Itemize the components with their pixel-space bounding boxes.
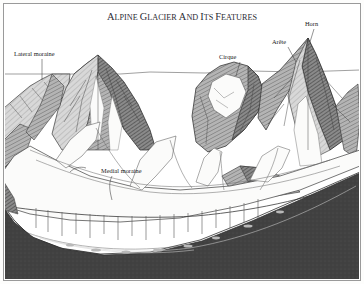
figure-border bbox=[3, 3, 361, 281]
glacier-diagram-figure: Lateral moraine Medial moraine Cirque Ar… bbox=[0, 0, 364, 284]
